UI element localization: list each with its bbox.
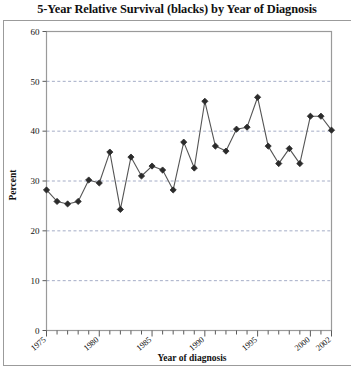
- x-tick-label-1975: 1975: [29, 335, 48, 353]
- x-axis-title: Year of diagnosis: [158, 353, 227, 363]
- x-tick-label-1990: 1990: [188, 335, 207, 353]
- x-tick-label-2002: 2002: [314, 335, 333, 353]
- y-axis-title: Percent: [8, 169, 18, 201]
- data-point-1994: [244, 124, 250, 130]
- x-tick-label-2000: 2000: [293, 335, 312, 353]
- data-point-1982: [117, 206, 123, 212]
- data-point-1986: [160, 167, 166, 173]
- data-point-1996: [265, 143, 271, 149]
- data-point-1993: [233, 126, 239, 132]
- x-axis-tick-labels-group: 1975198019851990199520002002: [29, 335, 333, 353]
- survival-line-chart: 0102030405060 19751980198519901995200020…: [0, 0, 354, 372]
- y-tick-label-40: 40: [31, 126, 41, 136]
- y-tick-label-20: 20: [31, 226, 41, 236]
- y-axis-tick-labels-group: 0102030405060: [31, 27, 41, 336]
- y-tick-label-10: 10: [31, 276, 41, 286]
- survival-series-line: [47, 97, 332, 209]
- data-point-1981: [107, 149, 113, 155]
- x-axis-ticks-group: [47, 331, 332, 337]
- y-tick-label-50: 50: [31, 77, 41, 87]
- data-point-1995: [255, 94, 261, 100]
- y-tick-label-0: 0: [35, 326, 40, 336]
- data-point-1991: [212, 143, 218, 149]
- x-tick-label-1980: 1980: [82, 335, 101, 353]
- x-tick-label-1995: 1995: [240, 335, 259, 353]
- data-point-1989: [191, 165, 197, 171]
- data-point-1988: [181, 139, 187, 145]
- data-point-1978: [75, 198, 81, 204]
- data-point-1990: [202, 98, 208, 104]
- data-point-2000: [307, 113, 313, 119]
- y-tick-label-30: 30: [31, 176, 41, 186]
- x-tick-label-1985: 1985: [135, 335, 154, 353]
- survival-series-markers-group: [43, 94, 334, 212]
- figure-container: 5-Year Relative Survival (blacks) by Yea…: [0, 0, 354, 372]
- data-point-1992: [223, 148, 229, 154]
- data-point-1977: [65, 201, 71, 207]
- data-point-1983: [128, 154, 134, 160]
- y-tick-label-60: 60: [31, 27, 41, 37]
- data-point-1987: [170, 187, 176, 193]
- data-point-1979: [86, 177, 92, 183]
